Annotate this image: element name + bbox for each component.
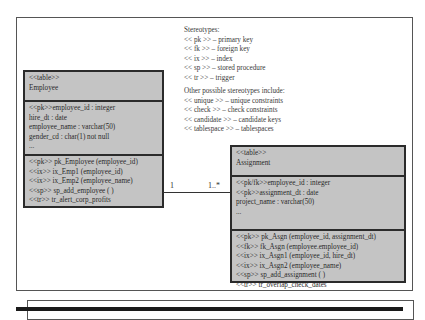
assignment-operations: <<pk>> pk_Asgn (employee_id, assignment_… <box>232 229 404 293</box>
employee-table[interactable]: <<table>> Employee <<pk>>employee_id : i… <box>23 70 164 208</box>
table-name: Assignment <box>236 159 400 169</box>
table-stereotype: <<table>> <box>29 74 158 84</box>
attribute: employee_name : varchar(50) <box>29 123 158 133</box>
relationship-line <box>163 192 230 193</box>
legend-item: << fk >> – foreign key <box>184 45 265 55</box>
operation: <<ix>> ix_Asgn2 (employee_name) <box>236 262 400 272</box>
attribute: ... <box>236 208 400 218</box>
legend-item: << candidate >> – candidate keys <box>184 116 285 126</box>
other-stereotypes-legend: Other possible stereotypes include: << u… <box>184 87 285 135</box>
legend-item: << sp >> – stored procedure <box>184 64 265 74</box>
attribute: <<pk/fk>>employee_id : integer <box>236 179 400 189</box>
assignment-table[interactable]: <<table>> Assignment <<pk/fk>>employee_i… <box>230 145 406 283</box>
right-multiplicity: 1..* <box>208 181 220 190</box>
operation: <<ix>> ix_Asgn1 (employee_id, hire_dt) <box>236 252 400 262</box>
operation: <<pk>> pk_Employee (employee_id) <box>29 158 158 168</box>
assignment-attributes: <<pk/fk>>employee_id : integer <<pk>>ass… <box>232 175 404 229</box>
table-stereotype: <<table>> <box>236 149 400 159</box>
left-multiplicity: 1 <box>170 181 174 190</box>
legend-item: << tablespace >> – tablespaces <box>184 125 285 135</box>
operation: <<pk>> pk_Asgn (employee_id, assignment_… <box>236 233 400 243</box>
operation: <<tr>> tr_overlap_check_dates <box>236 281 400 291</box>
legend-title: Other possible stereotypes include: <box>184 87 285 97</box>
operation: <<tr>> tr_alert_corp_profits <box>29 196 158 206</box>
attribute: hire_dt : date <box>29 114 158 124</box>
attribute: gender_cd : char(1) not null <box>29 133 158 143</box>
attribute: project_name : varchar(50) <box>236 198 400 208</box>
legend-item: << tr >> – trigger <box>184 74 265 84</box>
stereotypes-legend: Stereotypes: << pk >> – primary key << f… <box>184 26 265 84</box>
attribute: <<pk>>employee_id : integer <box>29 104 158 114</box>
legend-title: Stereotypes: <box>184 26 265 36</box>
legend-item: << unique >> – unique constraints <box>184 97 285 107</box>
legend-item: << check >> – check constraints <box>184 106 285 116</box>
operation: <<sp>> sp_add_employee ( ) <box>29 187 158 197</box>
attribute: ... <box>29 142 158 152</box>
operation: <<ix>> ix_Emp1 (employee_id) <box>29 168 158 178</box>
operation: <<ix>> ix_Emp2 (employee_name) <box>29 177 158 187</box>
table-name: Employee <box>29 84 158 94</box>
employee-attributes: <<pk>>employee_id : integer hire_dt : da… <box>25 100 162 154</box>
assignment-header: <<table>> Assignment <box>232 147 404 175</box>
legend-item: << ix >> – index <box>184 55 265 65</box>
attribute: <<pk>>assignment_dt : date <box>236 189 400 199</box>
next-diagram-header-bar <box>16 307 403 311</box>
operation: <<sp>> sp_add_assignment ( ) <box>236 271 400 281</box>
employee-header: <<table>> Employee <box>25 72 162 100</box>
employee-operations: <<pk>> pk_Employee (employee_id) <<ix>> … <box>25 154 162 208</box>
legend-item: << pk >> – primary key <box>184 36 265 46</box>
operation: <<fk>> fk_Asgn (employee.employee_id) <box>236 243 400 253</box>
